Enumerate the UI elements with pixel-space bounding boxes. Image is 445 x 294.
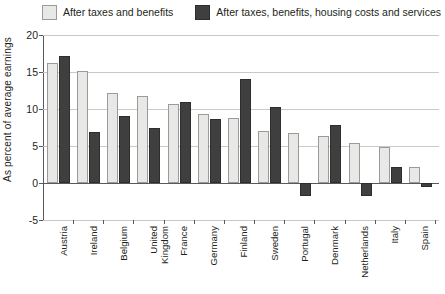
y-tick-label: 15 [26,66,38,78]
x-tick-mark [405,220,406,224]
bar [379,147,390,183]
bar-group [228,35,258,220]
bar [409,167,420,183]
legend-label: After taxes, benefits, housing costs and… [216,7,441,18]
bar [258,131,269,183]
x-tick-mark [345,220,346,224]
y-axis-title: As percent of average earnings [0,28,14,190]
bar [210,119,221,183]
x-tick-mark [314,220,315,224]
legend-swatch-icon-light [42,5,57,20]
bar-group [77,35,107,220]
bar [240,79,251,183]
bar-group [349,35,379,220]
bar-group [107,35,137,220]
bar [137,96,148,183]
bar [349,143,360,183]
x-tick-mark [254,220,255,224]
bar-group [168,35,198,220]
bar-group [198,35,228,220]
bar [119,116,130,183]
bar [391,167,402,183]
x-tick-mark [164,220,165,224]
x-axis-label: Sweden [270,226,282,292]
x-axis-label: United Kingdom [149,226,161,292]
x-tick-mark [103,220,104,224]
y-axis-title-text: As percent of average earnings [2,37,13,182]
x-axis-label: France [179,226,191,292]
x-axis-label: Portugal [300,226,312,292]
y-tick-label: 10 [26,103,38,115]
x-axis-label: Ireland [89,226,101,292]
bar-group [47,35,77,220]
bar-group [137,35,167,220]
bar [288,133,299,183]
bar [168,104,179,183]
bar [198,114,209,183]
bar [89,132,100,183]
x-tick-mark [73,220,74,224]
x-axis-label: Netherlands [360,226,372,292]
x-axis-label: Finland [239,226,251,292]
bar [300,183,311,196]
bar-group [288,35,318,220]
bar [77,71,88,183]
bars-layer [43,35,439,220]
x-tick-mark [435,220,436,224]
bar [180,102,191,183]
plot-area: 20151050-5 [43,35,439,220]
x-tick-mark [194,220,195,224]
x-tick-mark [375,220,376,224]
x-axis-label: Denmark [330,226,342,292]
x-axis-label: Spain [420,226,432,292]
x-axis-label: Austria [59,226,71,292]
bar [228,118,239,183]
bar [59,56,70,183]
bar-group [318,35,348,220]
bar-group [409,35,439,220]
bar [149,128,160,184]
x-axis-label: Italy [390,226,402,292]
legend-entry-after-taxes-benefits-housing: After taxes, benefits, housing costs and… [195,5,441,20]
y-tick-label: -5 [29,214,38,226]
bar-group [379,35,409,220]
x-tick-mark [224,220,225,224]
bar [318,136,329,183]
bar [47,63,58,183]
chart-container: After taxes and benefits After taxes, be… [0,0,445,294]
x-tick-mark [284,220,285,224]
bar [107,93,118,183]
legend-entry-after-taxes-and-benefits: After taxes and benefits [42,5,173,20]
y-tick-label: 20 [26,29,38,41]
x-axis-label: Germany [209,226,221,292]
bar [330,125,341,183]
bar [421,183,432,187]
x-axis-ticks [43,220,439,225]
x-axis-labels: AustriaIrelandBelgiumUnited KingdomFranc… [43,226,439,292]
legend-swatch-icon-dark [195,5,210,20]
chart-legend: After taxes and benefits After taxes, be… [0,0,445,24]
legend-label: After taxes and benefits [63,7,173,18]
bar-group [258,35,288,220]
y-tick-label: 5 [32,140,38,152]
x-axis-label: Belgium [119,226,131,292]
y-tick-label: 0 [32,177,38,189]
bar [361,183,372,196]
bar [270,107,281,183]
x-tick-mark [133,220,134,224]
